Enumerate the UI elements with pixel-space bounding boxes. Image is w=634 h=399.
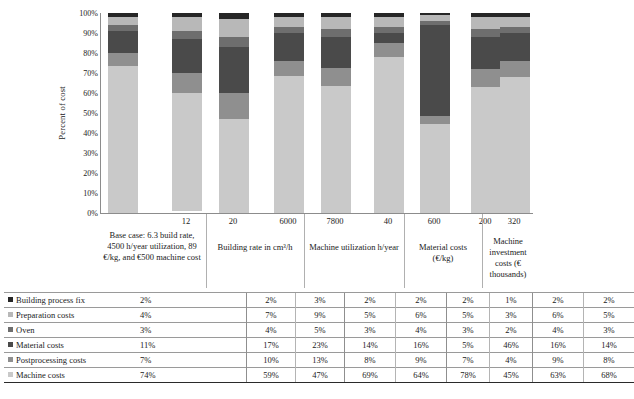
table-cell-value: 5% xyxy=(447,308,490,323)
bar-segment xyxy=(172,39,202,73)
bar-segment xyxy=(108,53,138,67)
bar-segment xyxy=(108,31,138,53)
bar-segment xyxy=(500,33,530,61)
bar-segment xyxy=(108,66,138,213)
bar-segment xyxy=(274,17,304,27)
table-cell-value: 17% xyxy=(247,338,296,353)
table-cell-value: 2% xyxy=(396,293,447,308)
y-tick-label: 0% xyxy=(70,209,98,218)
cost-breakdown-table: Building process fix2%2%3%2%2%2%1%2%2%Pr… xyxy=(4,292,532,392)
bar-segment xyxy=(219,93,249,119)
bar-segment xyxy=(172,73,202,93)
table-cell-value: 4% xyxy=(533,323,584,338)
bar-segment xyxy=(471,17,501,29)
y-axis-tick-labels: 0%10%20%30%40%50%60%70%80%90%100% xyxy=(70,13,98,213)
table-cell-value: 3% xyxy=(490,308,533,323)
table-cell-value: 47% xyxy=(296,368,345,383)
table-cell-value: 7% xyxy=(247,308,296,323)
bar-segment xyxy=(274,61,304,77)
bar-segment xyxy=(471,29,501,37)
bar-segment xyxy=(471,37,501,69)
table-row: Machine costs74%59%47%69%64%78%45%63%68% xyxy=(4,368,634,383)
table-row: Material costs11%17%23%14%16%5%46%16%14% xyxy=(4,338,634,353)
stacked-bar xyxy=(374,13,404,213)
table-cell-value: 64% xyxy=(396,368,447,383)
table-cell-empty xyxy=(180,368,247,383)
table-cell-value: 5% xyxy=(345,308,396,323)
x-group-label: Machine utilization h/year xyxy=(306,242,402,253)
stacked-bar-chart: Percent of cost 0%10%20%30%40%50%60%70%8… xyxy=(0,0,536,232)
bar-segment xyxy=(274,33,304,61)
y-tick-label: 10% xyxy=(70,189,98,198)
table-cell-value: 63% xyxy=(533,368,584,383)
legend-label-text: Machine costs xyxy=(16,370,65,380)
table-row: Preparation costs4%7%9%5%6%5%3%6%5% xyxy=(4,308,634,323)
legend-label-text: Material costs xyxy=(16,340,64,350)
group-divider xyxy=(482,214,483,288)
table-cell-empty xyxy=(180,353,247,368)
group-divider xyxy=(404,214,405,288)
table-cell-value: 14% xyxy=(345,338,396,353)
x-tick-label: 20 xyxy=(210,216,256,226)
table-cell-value: 4% xyxy=(247,323,296,338)
table-cell-value: 5% xyxy=(296,323,345,338)
bar-segment xyxy=(274,76,304,213)
stacked-bar xyxy=(108,13,138,213)
cost-table: Building process fix2%2%3%2%2%2%1%2%2%Pr… xyxy=(4,292,634,383)
stacked-bar xyxy=(274,13,304,213)
y-tick-label: 90% xyxy=(70,29,98,38)
legend-swatch-icon xyxy=(8,342,13,347)
bar-segment xyxy=(219,37,249,47)
bar-segment xyxy=(321,68,351,86)
table-cell-value: 7% xyxy=(447,353,490,368)
bar-segment xyxy=(172,17,202,31)
table-cell-empty xyxy=(180,338,247,353)
x-tick-label: 600 xyxy=(411,216,457,226)
stacked-bar xyxy=(500,13,530,213)
bar-segment xyxy=(219,19,249,37)
legend-row-label: Material costs xyxy=(4,338,130,353)
table-cell-value: 4% xyxy=(490,353,533,368)
legend-row-label: Postprocessing costs xyxy=(4,353,130,368)
legend-row-label: Preparation costs xyxy=(4,308,130,323)
plot-area xyxy=(100,13,533,214)
bar-segment xyxy=(420,25,450,116)
legend-label-text: Postprocessing costs xyxy=(16,355,86,365)
table-cell-value: 69% xyxy=(345,368,396,383)
bar-segment xyxy=(374,33,404,43)
bar-segment xyxy=(374,17,404,27)
bar-segment xyxy=(420,116,450,124)
y-axis-title: Percent of cost xyxy=(55,13,69,213)
table-cell-value: 1% xyxy=(490,293,533,308)
table-row: Building process fix2%2%3%2%2%2%1%2%2% xyxy=(4,293,634,308)
table-cell-value: 8% xyxy=(584,353,634,368)
y-tick-label: 40% xyxy=(70,129,98,138)
table-cell-base-case: 4% xyxy=(130,308,180,323)
bar-segment xyxy=(172,31,202,39)
table-cell-value: 10% xyxy=(247,353,296,368)
table-cell-base-case: 3% xyxy=(130,323,180,338)
y-tick-label: 50% xyxy=(70,109,98,118)
table-cell-value: 6% xyxy=(396,308,447,323)
table-cell-value: 2% xyxy=(247,293,296,308)
table-cell-value: 9% xyxy=(396,353,447,368)
y-tick-label: 70% xyxy=(70,69,98,78)
legend-swatch-icon xyxy=(8,357,13,362)
table-row: Postprocessing costs7%10%13%8%9%7%4%9%8% xyxy=(4,353,634,368)
table-cell-value: 3% xyxy=(296,293,345,308)
bar-segment xyxy=(321,29,351,37)
bar-segment xyxy=(420,124,450,213)
group-divider xyxy=(304,214,305,288)
table-cell-base-case: 7% xyxy=(130,353,180,368)
table-cell-empty xyxy=(180,308,247,323)
x-group-label: Machine investment costs (€ thousands) xyxy=(484,236,532,280)
x-tick-label: 320 xyxy=(491,216,537,226)
table-cell-value: 68% xyxy=(584,368,634,383)
table-cell-base-case: 74% xyxy=(130,368,180,383)
table-cell-value: 16% xyxy=(533,338,584,353)
table-cell-value: 23% xyxy=(296,338,345,353)
bar-segment xyxy=(374,57,404,213)
x-tick-label: 7800 xyxy=(312,216,358,226)
bar-segment xyxy=(321,37,351,69)
